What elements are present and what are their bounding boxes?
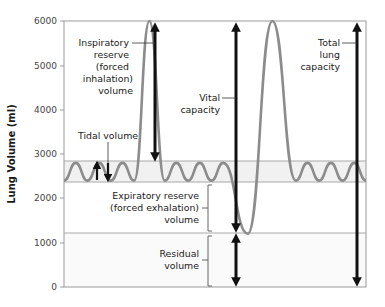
svg-text:Vital: Vital: [199, 92, 220, 103]
svg-text:volume: volume: [164, 214, 199, 225]
total-lung-capacity-label: Total lung capacity: [300, 37, 340, 72]
svg-text:capacity: capacity: [180, 104, 220, 115]
tidal-volume-label: Tidal volume: [77, 130, 138, 141]
svg-text:Total: Total: [317, 37, 340, 48]
tick-6000: 6000: [34, 16, 57, 26]
expiratory-bracket: [208, 185, 212, 231]
tick-5000: 5000: [34, 61, 57, 71]
inspiratory-reserve-label: Inspiratory reserve (forced inhalation) …: [78, 37, 133, 96]
svg-text:(forced: (forced: [96, 61, 129, 72]
expiratory-reserve-label: Expiratory reserve (forced exhalation) v…: [110, 190, 199, 225]
y-axis: [60, 21, 64, 287]
vital-capacity-label: Vital capacity: [180, 92, 220, 115]
svg-text:volume: volume: [164, 260, 199, 271]
tick-2000: 2000: [34, 193, 57, 203]
y-tick-labels: 0 1000 2000 3000 4000 5000 6000: [34, 16, 57, 292]
svg-text:volume: volume: [98, 85, 133, 96]
tick-1000: 1000: [34, 238, 57, 248]
svg-text:Residual: Residual: [159, 248, 199, 259]
tick-4000: 4000: [34, 105, 57, 115]
tick-0: 0: [51, 282, 57, 292]
svg-text:capacity: capacity: [300, 61, 340, 72]
residual-volume-label: Residual volume: [159, 248, 199, 271]
tick-3000: 3000: [34, 149, 57, 159]
svg-text:Expiratory reserve: Expiratory reserve: [112, 190, 199, 201]
residual-band: [64, 233, 366, 287]
svg-text:inhalation): inhalation): [83, 73, 133, 84]
y-axis-label: Lung Volume (ml): [6, 104, 17, 204]
svg-text:lung: lung: [320, 49, 340, 60]
svg-text:(forced exhalation): (forced exhalation): [110, 202, 199, 213]
svg-text:reserve: reserve: [94, 49, 129, 60]
svg-text:Inspiratory: Inspiratory: [78, 37, 129, 48]
lung-volume-chart: 0 1000 2000 3000 4000 5000 6000 Lung Vol…: [0, 0, 385, 307]
